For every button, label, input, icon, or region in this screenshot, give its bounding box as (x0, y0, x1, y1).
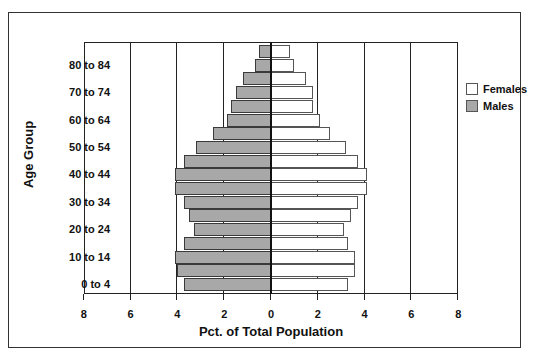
legend: Females Males (466, 80, 527, 114)
gridline (410, 42, 411, 294)
bar-females (271, 72, 306, 85)
bar-males (189, 209, 271, 222)
bar-females (271, 168, 367, 181)
x-tick-label: 4 (167, 308, 187, 320)
legend-label-males: Males (483, 100, 514, 112)
legend-label-females: Females (483, 83, 527, 95)
y-tick-label: 40 to 44 (30, 168, 110, 180)
bar-males (175, 251, 271, 264)
zero-line (270, 42, 272, 294)
x-tick (270, 294, 271, 300)
legend-item-males: Males (466, 97, 527, 114)
bar-females (271, 196, 358, 209)
bar-males (194, 223, 271, 236)
y-tick-label: 80 to 84 (30, 59, 110, 71)
x-tick (410, 294, 411, 300)
bar-females (271, 100, 313, 113)
bar-males (175, 182, 271, 195)
x-tick-label: 4 (355, 308, 375, 320)
x-tick (317, 294, 318, 300)
x-tick (83, 294, 84, 300)
bar-females (271, 45, 290, 58)
x-tick-label: 2 (308, 308, 328, 320)
bar-males (243, 72, 271, 85)
bar-females (271, 155, 358, 168)
bar-males (184, 155, 271, 168)
x-tick-label: 0 (261, 308, 281, 320)
y-tick-label: 70 to 74 (30, 86, 110, 98)
y-tick-label: 30 to 34 (30, 196, 110, 208)
x-tick-label: 6 (401, 308, 421, 320)
y-tick-label: 60 to 64 (30, 114, 110, 126)
y-tick-label: 0 to 4 (30, 278, 110, 290)
bar-males (196, 141, 271, 154)
bar-females (271, 237, 348, 250)
x-tick (130, 294, 131, 300)
bar-females (271, 251, 355, 264)
bar-males (227, 114, 271, 127)
bar-males (184, 278, 271, 291)
bar-males (236, 86, 271, 99)
bar-males (184, 237, 271, 250)
bar-females (271, 264, 355, 277)
bar-males (184, 196, 271, 209)
bar-males (213, 127, 272, 140)
legend-swatch-females (466, 83, 478, 95)
legend-item-females: Females (466, 80, 527, 97)
y-tick-label: 50 to 54 (30, 141, 110, 153)
gridline (130, 42, 131, 294)
x-tick-label: 6 (121, 308, 141, 320)
x-axis-title: Pct. of Total Population (171, 324, 371, 339)
x-tick (364, 294, 365, 300)
y-axis-title: Age Group (21, 105, 36, 205)
x-tick-label: 8 (74, 308, 94, 320)
bar-females (271, 141, 346, 154)
bar-females (271, 86, 313, 99)
bar-males (231, 100, 271, 113)
bar-females (271, 59, 294, 72)
x-tick-label: 8 (448, 308, 468, 320)
bar-females (271, 127, 330, 140)
bar-females (271, 223, 344, 236)
y-tick-label: 20 to 24 (30, 223, 110, 235)
legend-swatch-males (466, 100, 478, 112)
bar-females (271, 278, 348, 291)
x-tick-label: 2 (214, 308, 234, 320)
x-tick (457, 294, 458, 300)
bar-males (175, 168, 271, 181)
bar-females (271, 209, 351, 222)
x-tick (176, 294, 177, 300)
x-tick (223, 294, 224, 300)
bar-males (177, 264, 271, 277)
bar-males (255, 59, 271, 72)
bar-females (271, 114, 320, 127)
y-tick-label: 10 to 14 (30, 251, 110, 263)
bar-females (271, 182, 367, 195)
